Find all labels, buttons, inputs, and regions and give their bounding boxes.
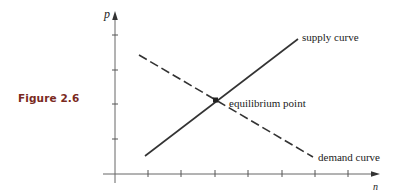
- demand-curve-label: demand curve: [318, 151, 380, 163]
- x-axis-label: n: [373, 181, 378, 192]
- equilibrium-point-marker: [213, 98, 218, 103]
- y-axis-label: p: [103, 7, 110, 21]
- y-axis: [112, 11, 118, 183]
- x-axis: [103, 170, 380, 177]
- supply-curve-label: supply curve: [302, 31, 359, 43]
- supply-demand-diagram: p n supply curve equilibrium point deman…: [0, 0, 400, 196]
- x-axis-arrow-icon: [371, 171, 380, 177]
- equilibrium-point-label: equilibrium point: [229, 97, 306, 109]
- y-axis-arrow-icon: [112, 11, 118, 20]
